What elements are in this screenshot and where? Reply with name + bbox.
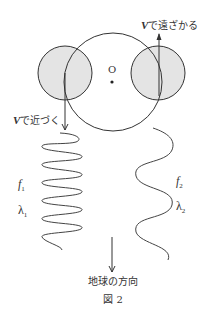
wavelength-subscript: 1 <box>24 211 28 219</box>
diagram-canvas <box>0 0 210 317</box>
doppler-binary-star-diagram: O Vで遠ざかる Vで近づく f1 λ1 f2 λ2 地球の方向 図 2 <box>0 0 210 317</box>
center-label: O <box>108 64 116 76</box>
frequency-subscript: 2 <box>179 182 183 190</box>
wavelength-2-label: λ2 <box>176 200 185 217</box>
earth-direction-label: 地球の方向 <box>0 276 210 288</box>
approaching-text: で近づく <box>20 115 60 126</box>
wavelength-subscript: 2 <box>182 207 186 215</box>
wave-long-wavelength <box>136 128 173 260</box>
center-point <box>110 80 113 83</box>
receding-text: で遠ざかる <box>148 20 198 31</box>
figure-caption: 図 2 <box>0 294 210 306</box>
frequency-1-label: f1 <box>18 178 25 195</box>
approaching-label: Vで近づく <box>13 114 60 127</box>
frequency-2-label: f2 <box>176 175 183 192</box>
earth-direction-arrow <box>109 237 115 272</box>
receding-star <box>131 46 185 100</box>
wavelength-1-label: λ1 <box>18 204 27 221</box>
receding-label: Vで遠ざかる <box>141 19 198 32</box>
wave-short-wavelength <box>42 133 82 250</box>
frequency-subscript: 1 <box>21 185 25 193</box>
